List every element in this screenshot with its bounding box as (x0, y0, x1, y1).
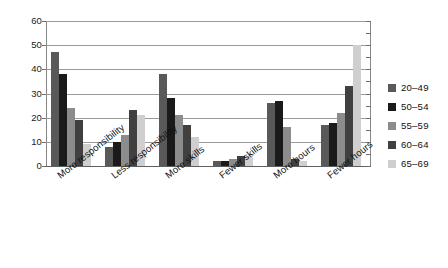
legend-item: 50–54 (388, 97, 429, 116)
bar (267, 103, 275, 166)
legend-swatch-icon (388, 84, 396, 92)
bar (275, 101, 283, 166)
right-axis-tick-mark (366, 81, 371, 82)
legend-swatch-icon (388, 141, 396, 149)
legend-swatch-icon (388, 122, 396, 130)
bar (59, 74, 67, 166)
legend-item: 60–64 (388, 135, 429, 154)
y-axis-tick-mark (42, 142, 46, 143)
right-axis-tick-mark (366, 130, 371, 131)
bar (213, 161, 221, 166)
y-axis-tick-mark (42, 45, 46, 46)
y-axis-tick-mark (42, 118, 46, 119)
y-axis-tick-mark (42, 166, 46, 167)
bar-chart: 0102030405060 More responsibilityLess re… (0, 0, 448, 268)
y-axis-tick-mark (42, 69, 46, 70)
bar (329, 123, 337, 167)
bar (159, 74, 167, 166)
y-axis-tick-mark (42, 94, 46, 95)
legend-swatch-icon (388, 103, 396, 111)
legend-label: 60–64 (401, 140, 429, 150)
y-axis-tick-label: 20 (31, 113, 42, 123)
legend-label: 20–49 (401, 83, 429, 93)
right-axis-tick-mark (366, 142, 371, 143)
right-axis-tick-mark (366, 33, 371, 34)
x-axis-line (46, 166, 371, 167)
legend-item: 20–49 (388, 78, 429, 97)
y-axis-tick-label: 30 (31, 89, 42, 99)
right-axis-tick-mark (366, 118, 371, 119)
bar (321, 125, 329, 166)
y-axis-tick-label: 60 (31, 16, 42, 26)
right-axis-tick-mark (366, 94, 371, 95)
legend-item: 55–59 (388, 116, 429, 135)
legend-swatch-icon (388, 160, 396, 168)
legend-label: 55–59 (401, 121, 429, 131)
right-axis-tick-mark (366, 21, 371, 22)
bar (51, 52, 59, 166)
y-axis-tick-mark (42, 21, 46, 22)
bar (105, 147, 113, 166)
right-axis-tick-mark (366, 166, 371, 167)
legend-label: 65–69 (401, 159, 429, 169)
right-axis-tick-mark (366, 154, 371, 155)
right-axis-tick-mark (366, 45, 371, 46)
right-axis-tick-mark (366, 57, 371, 58)
legend: 20–4950–5455–5960–6465–69 (388, 78, 429, 173)
y-axis-tick-labels: 0102030405060 (20, 21, 42, 166)
legend-label: 50–54 (401, 102, 429, 112)
y-axis-tick-label: 50 (31, 40, 42, 50)
right-axis-tick-mark (366, 106, 371, 107)
y-axis-tick-label: 40 (31, 64, 42, 74)
right-axis-tick-mark (366, 69, 371, 70)
legend-item: 65–69 (388, 154, 429, 173)
y-axis-tick-label: 10 (31, 137, 42, 147)
